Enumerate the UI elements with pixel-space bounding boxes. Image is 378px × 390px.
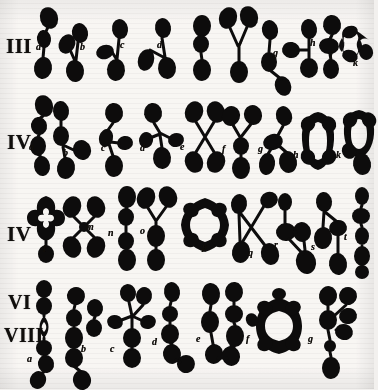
figure-viii-f	[248, 292, 304, 364]
figure-label-iv-b: b	[63, 148, 68, 158]
figure-label-viii-e: e	[196, 334, 200, 344]
figure-label-iv-h: h	[293, 150, 299, 160]
figure-iv-t	[348, 186, 376, 278]
figure-label-iv-r: r	[274, 240, 278, 250]
figure-label-iii-k: k	[353, 58, 358, 68]
figure-label-iv-e: e	[180, 142, 184, 152]
figure-label-iv-m: m	[86, 222, 94, 232]
figure-viii-b	[62, 286, 106, 390]
figure-label-viii-d: d	[152, 337, 157, 347]
figure-iv-q	[230, 190, 280, 268]
figure-label-iii-b: b	[80, 42, 85, 52]
figure-viii-e	[200, 282, 246, 370]
figure-label-iv-g: g	[258, 144, 263, 154]
figure-label-iv-c: c	[101, 143, 105, 153]
figure-label-iii-j: j	[330, 50, 333, 60]
figure-label-iv-k: k	[336, 150, 341, 160]
figure-viii-g	[312, 284, 364, 380]
figure-label-viii-g: g	[308, 334, 313, 344]
figure-label-iii-g: g	[273, 48, 278, 58]
figure-label-iii-e: e	[202, 42, 206, 52]
figure-label-viii-b: b	[81, 344, 86, 354]
figure-label-iii-a: a	[36, 42, 41, 52]
figure-label-iii-f: f	[238, 40, 241, 50]
figure-label-iii-d: d	[157, 40, 162, 50]
figure-label-iv-n: n	[108, 228, 114, 238]
figure-label-iv-o: o	[140, 226, 145, 236]
figure-label-iii-h: h	[310, 38, 316, 48]
row-numeral-iii: III	[6, 36, 32, 57]
figure-iv-h	[298, 110, 338, 174]
figure-iii-b	[58, 22, 94, 84]
figure-viii-c	[108, 284, 156, 370]
figure-label-viii-c: c	[110, 344, 114, 354]
figure-iv-m	[62, 196, 108, 260]
figure-label-viii-a: a	[27, 354, 32, 364]
figure-iv-c	[100, 102, 140, 180]
figure-label-viii-f: f	[246, 334, 249, 344]
figure-label-iv-t: t	[344, 232, 347, 242]
figure-iv-k	[342, 108, 378, 180]
figure-iv-g	[258, 104, 298, 180]
figure-iv-d	[140, 102, 188, 174]
figure-label-iii-c: c	[120, 40, 124, 50]
figure-label-iv-a: a	[29, 142, 34, 152]
figure-iii-d	[137, 16, 185, 84]
figure-label-iv-p: p	[202, 242, 207, 252]
figure-label-iv-d: d	[140, 143, 145, 153]
figure-label-iv-s: s	[311, 242, 315, 252]
figure-label-iv-q: q	[248, 248, 253, 258]
figure-label-iv-l: l	[43, 244, 46, 254]
figure-viii-a	[28, 280, 64, 388]
figure-label-iv-f: f	[222, 144, 225, 154]
figure-viii-d	[156, 282, 202, 374]
figure-iii-c	[98, 18, 136, 84]
figure-iv-b	[52, 100, 100, 180]
